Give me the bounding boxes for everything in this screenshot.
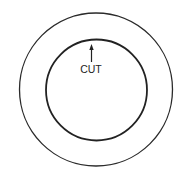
outer-circle [20,13,173,166]
cut-label: CUT [80,63,102,75]
inner-circle [46,40,147,141]
cut-arrow-icon [89,44,93,62]
cut-ring-diagram: CUT [0,0,179,176]
